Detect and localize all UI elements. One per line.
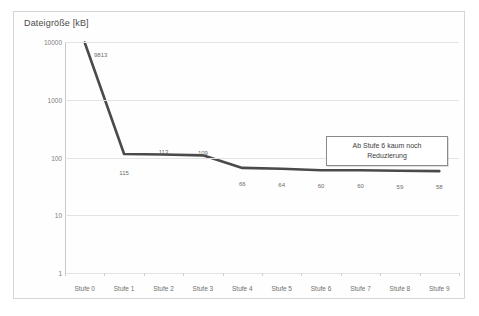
data-point-label-7: 60 bbox=[357, 183, 364, 189]
x-tick-mark bbox=[420, 273, 421, 276]
x-tick-label-0: Stufe 0 bbox=[74, 285, 95, 292]
x-tick-label-4: Stufe 4 bbox=[232, 285, 253, 292]
y-tick-label: 100 bbox=[22, 154, 62, 161]
x-tick-mark bbox=[459, 273, 460, 276]
gridline-1000 bbox=[65, 100, 459, 101]
y-tick-label: 1000 bbox=[22, 96, 62, 103]
x-tick-label-3: Stufe 3 bbox=[193, 285, 214, 292]
data-point-label-8: 59 bbox=[397, 184, 404, 190]
data-point-label-2: 113 bbox=[159, 149, 169, 155]
y-tick-label: 1 bbox=[22, 270, 62, 277]
x-tick-mark bbox=[183, 273, 184, 276]
x-tick-label-8: Stufe 8 bbox=[390, 285, 411, 292]
data-point-label-4: 66 bbox=[239, 181, 246, 187]
scanned-page: Dateigröße [kB] 100001000100101 Ab Stufe… bbox=[0, 0, 479, 316]
data-point-label-9: 58 bbox=[436, 184, 443, 190]
x-tick-mark bbox=[223, 273, 224, 276]
x-tick-mark bbox=[104, 273, 105, 276]
x-tick-mark bbox=[341, 273, 342, 276]
x-tick-mark bbox=[380, 273, 381, 276]
annotation-line-1: Ab Stufe 6 kaum noch bbox=[353, 142, 422, 149]
annotation-line-2: Reduzierung bbox=[367, 152, 407, 159]
x-tick-mark bbox=[301, 273, 302, 276]
annotation-callout: Ab Stufe 6 kaum noch Reduzierung bbox=[326, 136, 448, 166]
y-axis-tick-labels: 100001000100101 bbox=[18, 42, 62, 273]
y-tick-label: 10 bbox=[22, 212, 62, 219]
x-tick-label-5: Stufe 5 bbox=[271, 285, 292, 292]
y-tick-label: 10000 bbox=[22, 39, 62, 46]
data-point-label-6: 60 bbox=[318, 183, 325, 189]
x-tick-label-2: Stufe 2 bbox=[153, 285, 174, 292]
x-tick-label-6: Stufe 6 bbox=[311, 285, 332, 292]
x-tick-label-1: Stufe 1 bbox=[114, 285, 135, 292]
data-point-label-1: 115 bbox=[119, 170, 129, 176]
x-tick-mark bbox=[262, 273, 263, 276]
gridline-10000 bbox=[65, 42, 459, 43]
x-tick-label-9: Stufe 9 bbox=[429, 285, 450, 292]
data-point-label-0: 9813 bbox=[94, 52, 107, 58]
gridline-10 bbox=[65, 215, 459, 216]
data-point-label-3: 109 bbox=[198, 150, 208, 156]
chart-title: Dateigröße [kB] bbox=[24, 18, 89, 28]
data-point-label-5: 64 bbox=[278, 182, 285, 188]
x-tick-label-7: Stufe 7 bbox=[350, 285, 371, 292]
annotation-text: Ab Stufe 6 kaum noch Reduzierung bbox=[349, 141, 426, 161]
x-tick-mark bbox=[144, 273, 145, 276]
x-tick-mark bbox=[65, 273, 66, 276]
